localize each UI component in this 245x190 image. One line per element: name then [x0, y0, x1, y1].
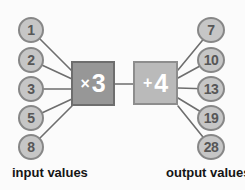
output-value-circle: 19 — [197, 105, 225, 131]
add-operand: 4 — [154, 71, 168, 96]
output-value-circle: 7 — [197, 17, 225, 43]
add-symbol: + — [143, 75, 152, 91]
input-value-circle: 3 — [18, 76, 44, 102]
input-value-circle: 2 — [18, 47, 44, 73]
output-values-label: output values — [166, 165, 245, 180]
input-value-circle: 5 — [18, 105, 44, 131]
input-value-circle: 1 — [18, 17, 44, 43]
input-values-label: input values — [12, 165, 88, 180]
output-value-circle: 13 — [197, 76, 225, 102]
multiply-symbol: × — [80, 76, 89, 92]
output-value-circle: 28 — [197, 134, 225, 160]
input-value-circle: 8 — [18, 134, 44, 160]
function-machine-diagram: 1 2 3 5 8 × 3 + 4 7 10 13 19 28 input va… — [0, 0, 245, 190]
add-operation-box: + 4 — [133, 61, 178, 105]
multiply-operation-box: × 3 — [71, 61, 115, 106]
output-value-circle: 10 — [197, 47, 225, 73]
multiply-operand: 3 — [92, 71, 106, 96]
